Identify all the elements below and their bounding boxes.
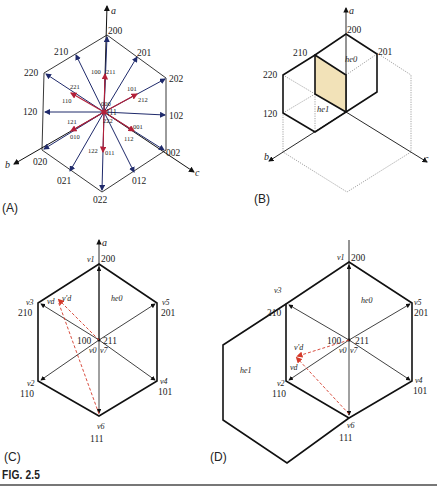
- label-102: 102: [169, 111, 184, 121]
- label-v3: v3: [274, 286, 282, 295]
- panel-d-label: (D): [210, 450, 227, 464]
- region-he1-label: he1: [317, 104, 329, 114]
- label-021: 021: [57, 176, 72, 186]
- label-211: 211: [355, 336, 369, 346]
- panel-b: a b c 200 201 210 220 120 he0 he1 (B): [254, 5, 429, 206]
- label-210: 210: [267, 308, 282, 318]
- label-v4: v4: [415, 376, 423, 385]
- panel-c: a 200 210 201 110 101 111 100 211 v1 v3: [4, 237, 176, 464]
- label-211: 211: [103, 336, 117, 346]
- axis-b-label: b: [264, 151, 269, 162]
- panel-b-label: (B): [254, 192, 270, 206]
- label-v5: v5: [414, 298, 422, 307]
- label-201: 201: [137, 48, 152, 58]
- label-vd-prime: v'd: [62, 294, 72, 303]
- label-v1: v1: [87, 255, 95, 264]
- label-022: 022: [93, 195, 108, 205]
- label-v2: v2: [27, 379, 35, 388]
- label-vd: vd: [47, 297, 56, 306]
- region-he0-label: he0: [361, 296, 373, 305]
- label-100: 100: [77, 336, 92, 346]
- label-100: 100: [327, 336, 342, 346]
- label-211: 211: [106, 68, 116, 75]
- label-v0: v0: [339, 346, 347, 355]
- label-210: 210: [18, 308, 33, 318]
- label-111: 111: [339, 433, 353, 443]
- label-200: 200: [351, 253, 366, 263]
- label-v6: v6: [347, 421, 355, 430]
- label-111: 111: [90, 434, 104, 444]
- label-221: 221: [70, 83, 80, 90]
- label-020: 020: [33, 157, 48, 167]
- axis-b-label: b: [5, 159, 10, 170]
- projection-lines: [283, 53, 411, 192]
- label-120: 120: [263, 109, 278, 119]
- label-200: 200: [108, 26, 123, 36]
- label-222: 222: [103, 117, 113, 124]
- label-201: 201: [161, 308, 176, 318]
- label-011: 011: [105, 149, 115, 156]
- label-110: 110: [272, 389, 286, 399]
- label-100: 100: [91, 68, 101, 75]
- label-v7: v7: [100, 346, 109, 355]
- label-v6: v6: [97, 422, 105, 431]
- label-110: 110: [20, 389, 34, 399]
- label-002: 002: [166, 148, 181, 158]
- panel-d: 200 210 201 110 101 111 100 211 v1 v3 v5…: [210, 240, 429, 464]
- label-201: 201: [414, 308, 429, 318]
- label-v0: v0: [89, 346, 97, 355]
- label-v4: v4: [160, 377, 168, 386]
- label-101: 101: [158, 387, 173, 397]
- label-012: 012: [132, 176, 147, 186]
- axis-c-label: c: [424, 153, 429, 164]
- panel-a-label: (A): [2, 201, 18, 215]
- axis-c-label: c: [195, 167, 200, 178]
- label-101: 101: [127, 85, 137, 92]
- state-labels: 200 210 201 110 101 111 100 211: [267, 253, 429, 443]
- label-000: 000: [101, 100, 111, 107]
- axis-a-label: a: [349, 5, 354, 16]
- label-120: 120: [23, 107, 38, 117]
- panel-a: a b c 200 201 202 102 002 012 022 021 02…: [2, 5, 200, 215]
- label-v1: v1: [337, 253, 345, 262]
- label-111: 111: [106, 108, 117, 117]
- label-220: 220: [24, 68, 39, 78]
- label-vd-prime: v'd: [294, 343, 304, 352]
- label-122: 122: [88, 147, 98, 154]
- label-121: 121: [67, 118, 77, 125]
- figure-canvas: a b c 200 201 202 102 002 012 022 021 02…: [0, 0, 437, 490]
- caption-rule: [0, 484, 437, 486]
- label-201: 201: [378, 47, 393, 57]
- label-202: 202: [169, 74, 184, 84]
- outer-vertex-labels: 200 201 202 102 002 012 022 021 020 120 …: [23, 26, 184, 205]
- label-001: 001: [133, 123, 143, 130]
- panel-c-label: (C): [4, 450, 21, 464]
- region-he0-label: he0: [345, 54, 358, 64]
- label-200: 200: [347, 25, 362, 35]
- label-210: 210: [293, 48, 308, 58]
- vector-name-labels: v1 v3 v5 v2 v4 v6 v0 v7 vd v'd he0: [26, 255, 170, 431]
- label-101: 101: [413, 386, 428, 396]
- label-210: 210: [54, 47, 69, 57]
- label-212: 212: [138, 96, 148, 103]
- label-vd: vd: [290, 363, 299, 372]
- label-010: 010: [70, 133, 80, 140]
- figure-caption: FIG. 2.5: [2, 468, 40, 482]
- label-v2: v2: [277, 379, 285, 388]
- label-200: 200: [101, 254, 116, 264]
- axis-a-label: a: [111, 5, 116, 16]
- label-v3: v3: [26, 298, 34, 307]
- label-v7: v7: [350, 346, 359, 355]
- region-he0-label: he0: [111, 294, 123, 303]
- label-220: 220: [263, 70, 278, 80]
- axis-c: [346, 112, 427, 162]
- label-110: 110: [62, 97, 72, 104]
- axis-a-label: a: [102, 237, 107, 248]
- label-v5: v5: [162, 298, 170, 307]
- region-he1-label: he1: [240, 366, 252, 375]
- label-112: 112: [124, 135, 134, 142]
